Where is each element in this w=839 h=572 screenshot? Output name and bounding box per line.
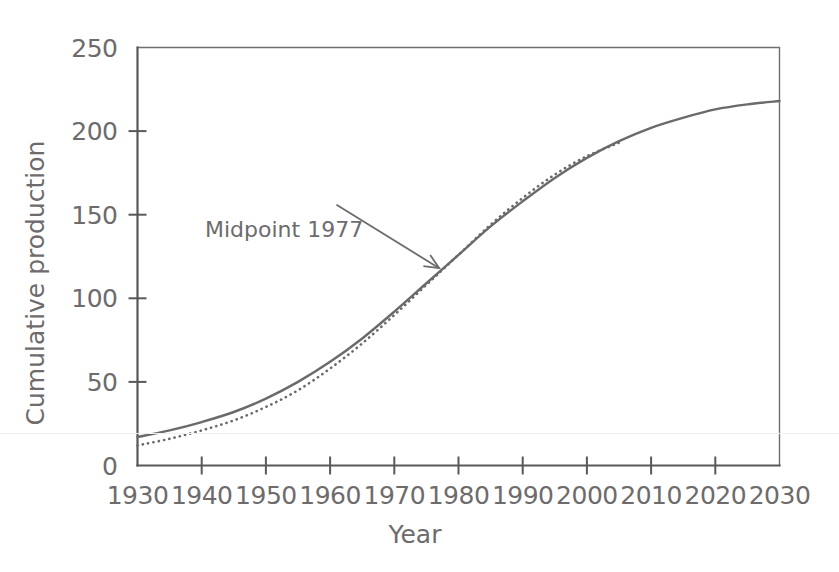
y-tick-label: 0 xyxy=(102,452,117,481)
data-series-layer xyxy=(138,101,780,445)
y-tick-label: 200 xyxy=(71,117,117,146)
x-tick-label: 2030 xyxy=(749,481,811,510)
x-tick-label: 2010 xyxy=(620,481,682,510)
cumulative-production-line-chart: 050100150200250 193019401950196019701980… xyxy=(0,0,839,572)
y-axis-ticks: 050100150200250 xyxy=(71,34,146,481)
x-tick-label: 1950 xyxy=(235,481,297,510)
x-tick-label: 1940 xyxy=(171,481,233,510)
x-axis-title: Year xyxy=(388,520,443,549)
x-tick-label: 1960 xyxy=(299,481,361,510)
chart-figure: 050100150200250 193019401950196019701980… xyxy=(0,0,839,572)
y-tick-label: 250 xyxy=(71,34,117,63)
x-tick-label: 2020 xyxy=(684,481,746,510)
y-tick-label: 50 xyxy=(87,368,118,397)
plot-frame xyxy=(138,48,780,466)
series-line-dotted xyxy=(138,143,620,446)
x-tick-label: 1970 xyxy=(363,481,425,510)
series-line-solid xyxy=(138,101,780,437)
y-tick-label: 100 xyxy=(71,284,117,313)
annotation-arrowhead xyxy=(423,255,439,268)
y-axis-title: Cumulative production xyxy=(21,141,50,426)
x-tick-label: 1980 xyxy=(428,481,490,510)
midpoint-annotation-label: Midpoint 1977 xyxy=(205,217,363,242)
y-tick-label: 150 xyxy=(71,201,117,230)
x-tick-label: 1930 xyxy=(107,481,169,510)
x-tick-label: 2000 xyxy=(556,481,618,510)
x-tick-label: 1990 xyxy=(492,481,554,510)
